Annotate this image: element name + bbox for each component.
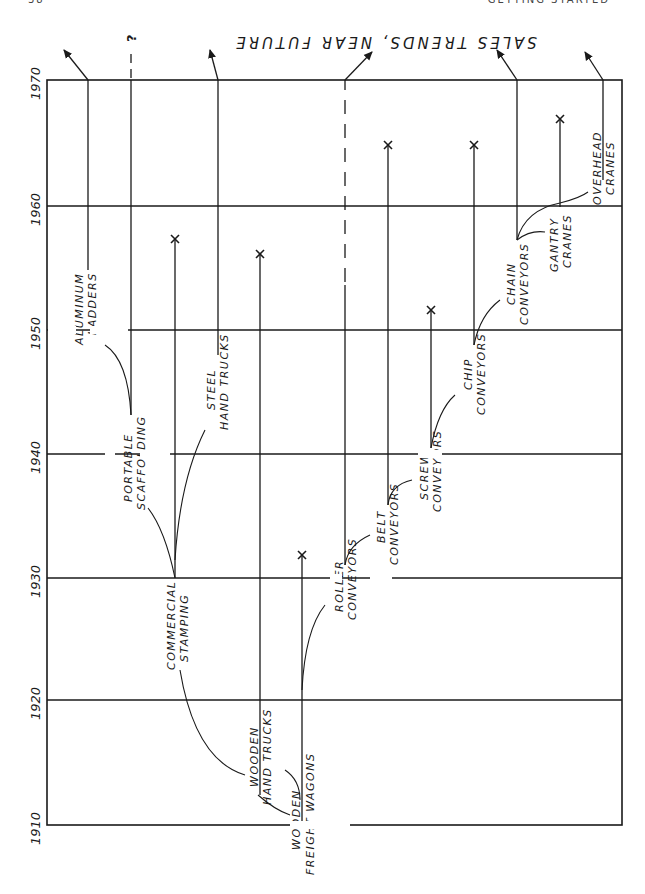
- svg-text:CRANES: CRANES: [604, 141, 617, 195]
- arrow-overhead-cranes: [585, 52, 603, 80]
- label-chip-conveyors: CHIP CONVEYORS: [462, 333, 488, 415]
- svg-text:SCREW: SCREW: [418, 452, 431, 500]
- tick-1970: 1970: [28, 67, 43, 100]
- tick-1940: 1940: [28, 441, 43, 474]
- tick-1930: 1930: [28, 565, 43, 598]
- label-aluminum-ladders: ALUMINUM LADDERS: [73, 272, 99, 346]
- label-chain-conveyors: CHAIN CONVEYORS: [505, 243, 531, 325]
- leader-chain-to-gantry: [517, 232, 545, 240]
- tick-1960: 1960: [28, 193, 43, 226]
- sales-trends-chart: SALES TRENDS, NEAR FUTURE 1970 1960 1950…: [0, 0, 645, 894]
- svg-text:HAND TRUCKS: HAND TRUCKS: [218, 333, 231, 430]
- question-mark: ?: [124, 34, 139, 42]
- chart-title-text: SALES TRENDS, NEAR FUTURE: [233, 33, 537, 51]
- svg-text:CONVEYORS: CONVEYORS: [346, 538, 359, 620]
- svg-text:CHIP: CHIP: [462, 358, 475, 390]
- svg-text:BELT: BELT: [375, 510, 388, 543]
- svg-text:ROLLER: ROLLER: [333, 560, 346, 612]
- svg-text:GANTRY: GANTRY: [548, 218, 561, 272]
- label-portable-scaffolding: PORTABLE SCAFFOLDING: [122, 415, 148, 510]
- svg-text:STEEL: STEEL: [205, 369, 218, 410]
- svg-text:LADDERS: LADDERS: [86, 272, 99, 335]
- arrow-chain-conveyors: [497, 50, 517, 80]
- tick-1920: 1920: [28, 687, 43, 720]
- svg-text:PORTABLE: PORTABLE: [122, 433, 135, 502]
- year-axis: 1970 1960 1950 1940 1930 1920 1910: [28, 67, 43, 845]
- svg-text:COMMERCIAL: COMMERCIAL: [165, 581, 178, 671]
- leader-roller-from-wagons: [302, 605, 325, 690]
- arrow-roller-conveyors: [345, 52, 372, 80]
- label-commercial-stamping: COMMERCIAL STAMPING: [165, 581, 191, 671]
- tick-1910: 1910: [28, 812, 43, 845]
- svg-text:CONVEYORS: CONVEYORS: [388, 483, 401, 565]
- svg-text:HAND TRUCKS: HAND TRUCKS: [261, 708, 274, 805]
- svg-text:CONVEYORS: CONVEYORS: [475, 333, 488, 415]
- svg-text:STAMPING: STAMPING: [178, 594, 191, 662]
- svg-text:CRANES: CRANES: [561, 214, 574, 268]
- leader-commercial-label: [180, 670, 245, 775]
- svg-text:CONVEYORS: CONVEYORS: [518, 243, 531, 325]
- svg-text:CHAIN: CHAIN: [505, 263, 518, 305]
- svg-text:CONVEYORS: CONVEYORS: [431, 430, 444, 512]
- tick-1950: 1950: [28, 317, 43, 350]
- label-steel-hand-trucks: STEEL HAND TRUCKS: [205, 333, 231, 430]
- label-wooden-freight-wagons: WOODEN FREIGHT WAGONS: [290, 753, 317, 875]
- label-belt-conveyors: BELT CONVEYORS: [375, 483, 401, 565]
- svg-text:SCAFFOLDING: SCAFFOLDING: [135, 415, 148, 510]
- svg-text:WOODEN: WOODEN: [248, 726, 261, 787]
- leader-commercial-to-scaffolding: [148, 508, 175, 578]
- leader-commercial-to-steel: [175, 430, 205, 560]
- svg-text:OVERHEAD: OVERHEAD: [591, 131, 604, 205]
- label-overhead-cranes: OVERHEAD CRANES: [591, 131, 617, 205]
- arrow-aluminum-ladders: [64, 50, 88, 80]
- label-gantry-cranes: GANTRY CRANES: [548, 214, 574, 272]
- label-wooden-hand-trucks: WOODEN HAND TRUCKS: [248, 708, 274, 805]
- chart-title: SALES TRENDS, NEAR FUTURE: [233, 33, 537, 51]
- leader-scaffolding: [105, 345, 131, 415]
- arrow-steel-hand-trucks: [210, 50, 218, 80]
- label-screw-conveyors: SCREW CONVEYORS: [418, 430, 444, 512]
- svg-text:FREIGHT WAGONS: FREIGHT WAGONS: [304, 753, 317, 875]
- svg-text:ALUMINUM: ALUMINUM: [73, 273, 86, 346]
- svg-text:WOODEN: WOODEN: [290, 789, 303, 850]
